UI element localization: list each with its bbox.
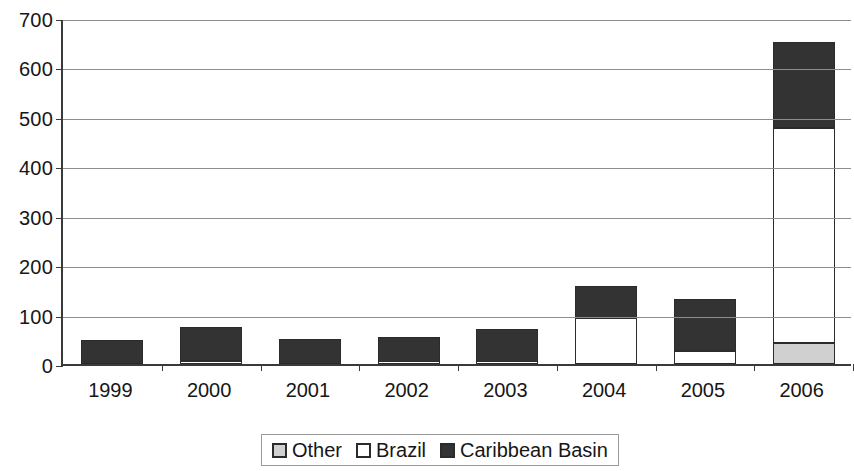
bar-segment-caribbean-basin bbox=[81, 340, 143, 364]
bar-segment-brazil bbox=[674, 351, 736, 364]
gridline bbox=[63, 119, 851, 120]
bar-segment-other bbox=[773, 343, 835, 364]
y-axis-tick-label: 0 bbox=[1, 356, 53, 376]
y-axis-tick bbox=[56, 366, 63, 367]
gridline bbox=[63, 20, 851, 21]
x-axis-tick-label: 2000 bbox=[164, 378, 254, 402]
legend-swatch-caribbean-basin bbox=[440, 443, 455, 458]
y-axis-tick-label: 100 bbox=[1, 307, 53, 327]
bar-segment-caribbean-basin bbox=[476, 329, 538, 362]
gridline bbox=[63, 267, 851, 268]
y-axis-tick-label: 400 bbox=[1, 158, 53, 178]
legend-swatch-brazil bbox=[356, 443, 371, 458]
gridline bbox=[63, 69, 851, 70]
x-axis-tick-label: 2001 bbox=[263, 378, 353, 402]
y-axis-tick-label: 200 bbox=[1, 257, 53, 277]
y-axis-tick bbox=[56, 267, 63, 268]
bar-segment-caribbean-basin bbox=[575, 286, 637, 318]
bar-segment-caribbean-basin bbox=[180, 327, 242, 360]
x-axis-tick-label: 2005 bbox=[658, 378, 748, 402]
legend-swatch-other bbox=[272, 443, 287, 458]
x-axis-tick bbox=[261, 364, 262, 371]
legend-item-label: Brazil bbox=[376, 440, 426, 460]
x-axis-tick bbox=[359, 364, 360, 371]
y-axis-tick-label: 700 bbox=[1, 10, 53, 30]
y-axis-tick-label: 500 bbox=[1, 109, 53, 129]
chart-legend: OtherBrazilCaribbean Basin bbox=[261, 434, 619, 466]
y-axis-tick bbox=[56, 20, 63, 21]
gridline bbox=[63, 218, 851, 219]
legend-item: Caribbean Basin bbox=[440, 440, 608, 460]
x-axis-tick bbox=[557, 364, 558, 371]
x-axis-tick bbox=[162, 364, 163, 371]
plot-area bbox=[61, 20, 851, 366]
gridline bbox=[63, 317, 851, 318]
legend-item-label: Caribbean Basin bbox=[460, 440, 608, 460]
bars-layer bbox=[63, 20, 851, 364]
bar-segment-caribbean-basin bbox=[674, 299, 736, 350]
gridline bbox=[63, 168, 851, 169]
x-axis-tick-label: 2004 bbox=[559, 378, 649, 402]
x-axis-tick-label: 1999 bbox=[65, 378, 155, 402]
bar-segment-brazil bbox=[773, 128, 835, 343]
x-axis-tick-label: 2006 bbox=[757, 378, 847, 402]
bar-segment-brazil bbox=[575, 318, 637, 364]
bar-segment-caribbean-basin bbox=[279, 339, 341, 364]
bar-segment-caribbean-basin bbox=[773, 42, 835, 129]
x-axis: 19992000200120022003200420052006 bbox=[61, 378, 851, 406]
legend-item-label: Other bbox=[292, 440, 342, 460]
y-axis-tick bbox=[56, 317, 63, 318]
y-axis-tick-label: 300 bbox=[1, 208, 53, 228]
x-axis-tick bbox=[656, 364, 657, 371]
x-axis-tick-label: 2002 bbox=[362, 378, 452, 402]
y-axis-tick bbox=[56, 69, 63, 70]
bar-segment-brazil bbox=[180, 361, 242, 364]
x-axis-tick bbox=[754, 364, 755, 371]
x-axis-tick bbox=[458, 364, 459, 371]
bar-segment-caribbean-basin bbox=[378, 337, 440, 362]
y-axis-tick bbox=[56, 168, 63, 169]
legend-item: Other bbox=[272, 440, 342, 460]
y-axis: 0100200300400500600700 bbox=[0, 0, 53, 471]
y-axis-tick-label: 600 bbox=[1, 59, 53, 79]
y-axis-tick bbox=[56, 218, 63, 219]
x-axis-tick-label: 2003 bbox=[460, 378, 550, 402]
y-axis-tick bbox=[56, 119, 63, 120]
legend-item: Brazil bbox=[356, 440, 426, 460]
